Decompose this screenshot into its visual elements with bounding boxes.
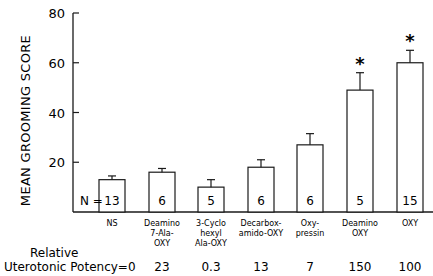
y-tick-label: 40 (48, 106, 65, 121)
category-label: Deamino (144, 219, 180, 228)
n-value: 15 (402, 194, 417, 208)
n-label: N = (80, 194, 103, 208)
n-value: 13 (104, 194, 119, 208)
n-value: 6 (257, 194, 265, 208)
potency-label: Uterotonic Potency=0 (4, 260, 136, 274)
significance-marker: * (355, 53, 365, 74)
category-label: 3-Cyclo (196, 219, 226, 228)
potency-value: 100 (399, 260, 422, 274)
bar (397, 63, 423, 212)
category-label: OXY (154, 239, 170, 248)
y-axis-title: MEAN GROOMING SCORE (18, 35, 33, 206)
y-tick-label: 20 (48, 155, 65, 170)
n-value: 6 (158, 194, 166, 208)
y-tick-label: 80 (48, 6, 65, 21)
potency-value: 13 (253, 260, 268, 274)
potency-value: 150 (349, 260, 372, 274)
potency-label: Relative (30, 246, 78, 260)
n-value: 5 (356, 194, 364, 208)
category-label: amido-OXY (239, 229, 283, 238)
labels: NSDeamino7-Ala-OXY233-CyclohexylAla-OXY0… (4, 219, 421, 274)
bars: 136566*5*15N = (80, 30, 423, 212)
potency-value: 7 (306, 260, 314, 274)
significance-marker: * (405, 30, 415, 51)
bar-chart: 20406080MEAN GROOMING SCORE 136566*5*15N… (0, 0, 433, 276)
category-label: OXY (352, 229, 368, 238)
category-label: Deamino (342, 219, 378, 228)
potency-value: 23 (154, 260, 169, 274)
category-label: Oxy- (301, 219, 320, 228)
category-label: Decarbox- (240, 219, 281, 228)
category-label: hexyl (200, 229, 222, 238)
y-tick-label: 60 (48, 56, 65, 71)
category-label: pressin (296, 229, 325, 238)
category-label: 7-Ala- (150, 229, 173, 238)
category-label: NS (106, 219, 117, 228)
potency-value: 0.3 (201, 260, 220, 274)
n-value: 5 (207, 194, 215, 208)
category-label: Ala-OXY (195, 239, 227, 248)
category-label: OXY (402, 219, 418, 228)
n-value: 6 (306, 194, 314, 208)
